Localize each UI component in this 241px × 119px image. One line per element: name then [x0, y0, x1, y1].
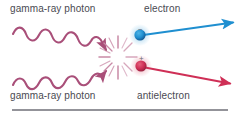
- electron-charge-sign: −: [138, 26, 143, 34]
- label-electron: electron: [144, 3, 180, 14]
- diagram-canvas: [0, 0, 241, 119]
- label-antielectron: antielectron: [137, 90, 190, 101]
- pair-production-diagram: gamma-ray photon gamma-ray photon electr…: [0, 0, 241, 119]
- photon-wave-bottom-icon: [13, 71, 106, 89]
- label-gamma-ray-photon-top: gamma-ray photon: [10, 3, 96, 14]
- label-gamma-ray-photon-bottom: gamma-ray photon: [10, 90, 96, 101]
- photon-wave-top-icon: [13, 28, 106, 50]
- antielectron-charge-sign: +: [139, 55, 144, 63]
